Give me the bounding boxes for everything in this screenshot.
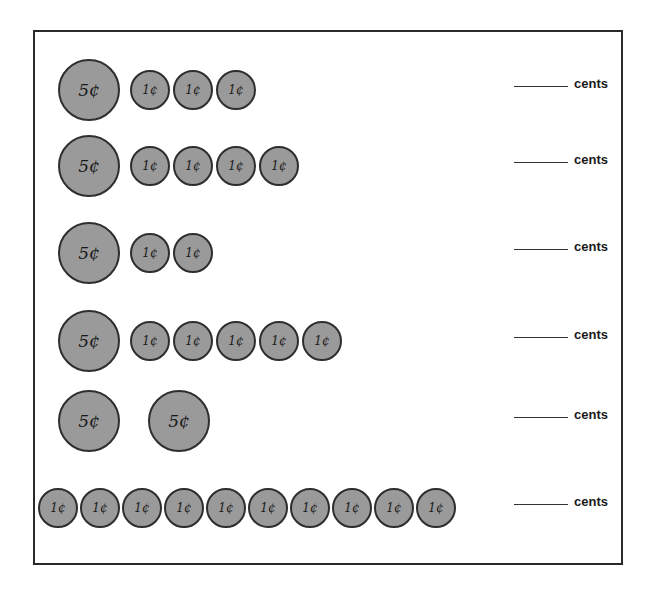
penny-coin: 1¢ xyxy=(216,321,256,361)
answer-blank[interactable] xyxy=(514,416,568,418)
penny-coin: 1¢ xyxy=(164,488,204,528)
nickel-coin: 5¢ xyxy=(58,135,120,197)
answer-blank[interactable] xyxy=(514,85,568,87)
unit-label: cents xyxy=(574,407,608,422)
penny-coin: 1¢ xyxy=(302,321,342,361)
answer-field[interactable]: cents xyxy=(514,239,608,254)
penny-coin: 1¢ xyxy=(416,488,456,528)
worksheet-border xyxy=(33,30,623,565)
unit-label: cents xyxy=(574,239,608,254)
penny-coin: 1¢ xyxy=(248,488,288,528)
penny-coin: 1¢ xyxy=(130,70,170,110)
nickel-coin: 5¢ xyxy=(58,222,120,284)
answer-blank[interactable] xyxy=(514,248,568,250)
answer-blank[interactable] xyxy=(514,336,568,338)
nickel-coin: 5¢ xyxy=(58,390,120,452)
penny-coin: 1¢ xyxy=(130,321,170,361)
answer-field[interactable]: cents xyxy=(514,152,608,167)
nickel-coin: 5¢ xyxy=(58,59,120,121)
penny-coin: 1¢ xyxy=(173,321,213,361)
penny-coin: 1¢ xyxy=(173,146,213,186)
answer-blank[interactable] xyxy=(514,161,568,163)
penny-coin: 1¢ xyxy=(173,70,213,110)
unit-label: cents xyxy=(574,76,608,91)
penny-coin: 1¢ xyxy=(206,488,246,528)
unit-label: cents xyxy=(574,327,608,342)
nickel-coin: 5¢ xyxy=(58,310,120,372)
penny-coin: 1¢ xyxy=(259,321,299,361)
penny-coin: 1¢ xyxy=(130,146,170,186)
answer-field[interactable]: cents xyxy=(514,494,608,509)
penny-coin: 1¢ xyxy=(290,488,330,528)
answer-field[interactable]: cents xyxy=(514,76,608,91)
penny-coin: 1¢ xyxy=(122,488,162,528)
penny-coin: 1¢ xyxy=(216,146,256,186)
answer-field[interactable]: cents xyxy=(514,327,608,342)
penny-coin: 1¢ xyxy=(332,488,372,528)
penny-coin: 1¢ xyxy=(130,233,170,273)
penny-coin: 1¢ xyxy=(216,70,256,110)
unit-label: cents xyxy=(574,494,608,509)
answer-blank[interactable] xyxy=(514,503,568,505)
penny-coin: 1¢ xyxy=(80,488,120,528)
answer-field[interactable]: cents xyxy=(514,407,608,422)
penny-coin: 1¢ xyxy=(259,146,299,186)
penny-coin: 1¢ xyxy=(374,488,414,528)
nickel-coin: 5¢ xyxy=(148,390,210,452)
penny-coin: 1¢ xyxy=(38,488,78,528)
penny-coin: 1¢ xyxy=(173,233,213,273)
unit-label: cents xyxy=(574,152,608,167)
